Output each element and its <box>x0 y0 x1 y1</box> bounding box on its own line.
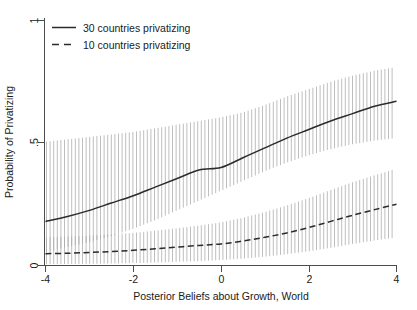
x-tick-label-2: 2 <box>307 273 313 285</box>
x-tick-label--2: -2 <box>129 273 138 285</box>
y-tick-label-0: 0 <box>28 262 40 268</box>
x-tick-label--4: -4 <box>41 273 50 285</box>
probability-of-privatizing-chart: 0 .5 1 -4 -2 0 2 4 Posterior Beliefs abo… <box>0 0 417 310</box>
y-axis-title: Probability of Privatizing <box>3 86 15 198</box>
y-tick-label-1: 1 <box>28 17 40 23</box>
chart-figure: 0 .5 1 -4 -2 0 2 4 Posterior Beliefs abo… <box>0 0 417 310</box>
legend-label-30-countries: 30 countries privatizing <box>83 22 191 34</box>
x-axis-title: Posterior Beliefs about Growth, World <box>133 290 309 302</box>
x-tick-label-0: 0 <box>219 273 225 285</box>
x-tick-label-4: 4 <box>394 273 400 285</box>
y-tick-label-point5: .5 <box>28 138 40 147</box>
legend-label-10-countries: 10 countries privatizing <box>83 39 191 51</box>
